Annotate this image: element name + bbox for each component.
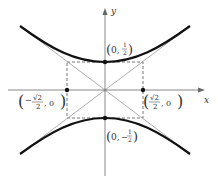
- x-axis-arrow-icon: [198, 88, 205, 93]
- x-axis-label: x: [204, 95, 209, 105]
- y-axis-arrow-icon: [103, 8, 108, 15]
- svg-text:0,: 0,: [111, 132, 120, 142]
- y-axis-label: y: [110, 6, 117, 16]
- svg-text:2: 2: [153, 103, 157, 111]
- top-vertex-label: ( 0, 1 2 ): [106, 41, 133, 57]
- svg-text:): ): [177, 92, 183, 111]
- left-point-label: ( − √2 2 , 0 ): [18, 92, 66, 111]
- origin-point: [104, 89, 107, 92]
- svg-text:): ): [128, 42, 133, 57]
- svg-text:1: 1: [128, 128, 132, 135]
- hyperbola-diagram: y x ( 0, 1 2 ) ( 0, − 1 2 ) ( − √2 2 ,: [0, 0, 218, 180]
- svg-text:): ): [133, 129, 138, 144]
- svg-text:0,: 0,: [111, 45, 120, 55]
- svg-text:−: −: [121, 133, 128, 142]
- svg-text:√2: √2: [33, 94, 42, 102]
- top-vertex-point: [103, 60, 107, 64]
- svg-text:−: −: [25, 96, 32, 105]
- svg-text:(: (: [143, 92, 149, 111]
- right-point-label: ( √2 2 , 0 ): [143, 92, 183, 111]
- diagram-svg: y x ( 0, 1 2 ) ( 0, − 1 2 ) ( − √2 2 ,: [0, 0, 218, 180]
- svg-text:1: 1: [123, 41, 127, 48]
- svg-text:): ): [60, 92, 66, 111]
- svg-text:(: (: [18, 92, 24, 111]
- bottom-vertex-point: [103, 116, 107, 120]
- svg-text:, 0: , 0: [161, 99, 171, 108]
- svg-text:2: 2: [128, 136, 132, 143]
- svg-text:√2: √2: [150, 94, 159, 102]
- svg-text:2: 2: [36, 103, 40, 111]
- bottom-vertex-label: ( 0, − 1 2 ): [106, 128, 138, 144]
- svg-text:2: 2: [123, 49, 127, 56]
- svg-text:, 0: , 0: [44, 99, 54, 108]
